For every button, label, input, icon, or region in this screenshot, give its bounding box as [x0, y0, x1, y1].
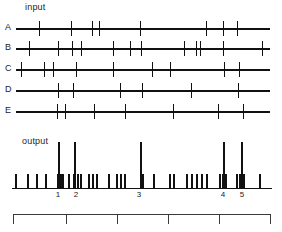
output-spike-short [236, 174, 238, 188]
output-spike-tall [74, 142, 76, 188]
output-spike-short [243, 174, 245, 188]
scale-bar-tick [13, 214, 14, 224]
input-spike [99, 21, 100, 36]
input-spike [58, 41, 59, 56]
input-spike [125, 104, 126, 119]
input-spike [170, 62, 171, 77]
output-spike-short [191, 174, 193, 188]
input-spike [53, 62, 54, 77]
input-spike [196, 41, 197, 56]
input-spike [113, 62, 114, 77]
input-spike [71, 21, 72, 36]
input-spike [218, 104, 219, 119]
output-spike-tall [140, 142, 142, 188]
output-spike-short [186, 174, 188, 188]
x-axis-tick-label: 4 [218, 190, 228, 199]
input-spike [224, 62, 225, 77]
output-spike-short [62, 174, 64, 188]
input-spike [92, 21, 93, 36]
output-panel-title: output [22, 136, 48, 146]
input-spike [173, 104, 174, 119]
output-spike-short [120, 174, 122, 188]
x-axis-tick-label: 5 [237, 190, 247, 199]
output-spike-short [206, 174, 208, 188]
output-spike-short [259, 174, 261, 188]
input-row-label-b: B [5, 42, 15, 52]
input-row-label-e: E [5, 105, 15, 115]
input-row-axis-e [16, 111, 270, 113]
output-spike-tall [223, 142, 225, 188]
input-spike [130, 41, 131, 56]
input-panel-title: input [25, 2, 46, 12]
output-spike-short [116, 174, 118, 188]
input-spike [113, 41, 114, 56]
input-spike [39, 21, 40, 36]
figure-canvas: input ABCDE output 12345 [0, 0, 282, 232]
scale-bar-tick [66, 214, 67, 224]
output-spike-short [225, 174, 227, 188]
input-spike [243, 104, 244, 119]
input-spike [238, 83, 239, 98]
output-spike-short [36, 174, 38, 188]
input-spike [29, 41, 30, 56]
output-spike-short [173, 174, 175, 188]
output-spike-short [96, 174, 98, 188]
output-spike-short [68, 174, 70, 188]
input-spike [191, 83, 192, 98]
output-spike-short [153, 174, 155, 188]
input-spike [76, 62, 77, 77]
output-spike-tall [241, 142, 243, 188]
output-spike-short [27, 174, 29, 188]
input-row-label-d: D [5, 84, 15, 94]
input-spike [81, 41, 82, 56]
output-spike-short [92, 174, 94, 188]
input-row-label-a: A [5, 22, 15, 32]
output-spike-short [45, 174, 47, 188]
input-spike [21, 62, 22, 77]
x-axis-tick-label: 2 [71, 190, 81, 199]
input-spike [141, 41, 142, 56]
output-spike-short [88, 174, 90, 188]
scale-bar-tick [270, 214, 271, 224]
output-spike-short [108, 174, 110, 188]
output-spike-short [124, 174, 126, 188]
input-spike [223, 21, 224, 36]
scale-bar-tick [117, 214, 118, 224]
input-row-axis-b [16, 48, 270, 50]
input-spike [184, 41, 185, 56]
input-spike [65, 104, 66, 119]
x-axis-tick-label: 1 [53, 190, 63, 199]
input-spike [44, 62, 45, 77]
input-spike [239, 62, 240, 77]
output-spike-short [196, 174, 198, 188]
output-spike-short [80, 174, 82, 188]
input-spike [58, 83, 59, 98]
input-spike [140, 21, 141, 36]
output-spike-short [77, 174, 79, 188]
input-spike [142, 83, 143, 98]
input-spike [94, 104, 95, 119]
output-spike-short [201, 174, 203, 188]
input-spike [120, 83, 121, 98]
output-spike-short [219, 174, 221, 188]
scale-bar-tick [168, 214, 169, 224]
input-row-axis-a [16, 28, 270, 30]
input-spike [206, 21, 207, 36]
input-spike [237, 21, 238, 36]
x-axis-tick-label: 3 [134, 190, 144, 199]
input-spike [200, 41, 201, 56]
output-spike-short [142, 174, 144, 188]
output-spike-short [15, 174, 17, 188]
input-spike [57, 104, 58, 119]
input-spike [262, 41, 263, 56]
input-spike [152, 62, 153, 77]
output-spike-short [169, 174, 171, 188]
output-spike-tall [58, 142, 60, 188]
input-spike [72, 41, 73, 56]
input-spike [223, 41, 224, 56]
scale-bar-line [13, 214, 270, 215]
input-spike [73, 83, 74, 98]
input-row-label-c: C [5, 63, 15, 73]
scale-bar-tick [219, 214, 220, 224]
